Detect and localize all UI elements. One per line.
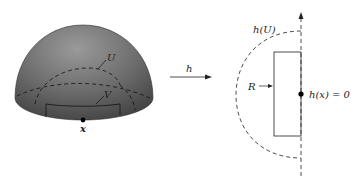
point-hx	[298, 91, 303, 96]
mapping-arrow	[170, 75, 212, 80]
region-r	[274, 52, 301, 136]
point-x	[81, 118, 86, 123]
label-u: U	[107, 52, 116, 63]
label-h: h	[186, 63, 192, 74]
label-x: x	[79, 123, 87, 134]
arrow-up-icon	[299, 12, 304, 19]
chart-diagram: U V x h h(U) R h(x) = 0	[0, 0, 358, 182]
half-plane-image	[236, 12, 304, 176]
dome-surface	[15, 25, 153, 122]
label-hu: h(U)	[253, 24, 276, 35]
region-hu-boundary	[236, 31, 301, 158]
label-hx: h(x) = 0	[309, 89, 351, 100]
label-r: R	[247, 81, 256, 92]
